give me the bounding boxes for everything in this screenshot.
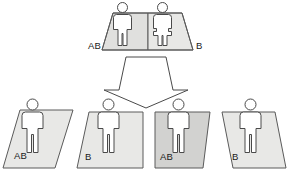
parent-female-head: [158, 3, 168, 13]
offspring-3: AB: [155, 99, 210, 168]
offspring-2: B: [77, 99, 143, 168]
diagram-canvas: AB B AB B AB: [0, 0, 289, 173]
parent-male-head: [118, 3, 128, 13]
parents-label-ab: AB: [88, 40, 101, 51]
offspring-1-head: [27, 99, 38, 110]
offspring-1: AB: [3, 99, 73, 168]
offspring-2-head: [103, 99, 114, 110]
blood-type-inheritance-diagram: AB B AB B AB: [0, 0, 289, 173]
offspring-4-head: [245, 99, 256, 110]
parents-label-b: B: [196, 40, 203, 51]
offspring-2-label: B: [85, 151, 92, 162]
parents-group: AB B: [88, 3, 203, 52]
offspring-4: B: [222, 99, 286, 168]
offspring-3-label: AB: [160, 151, 173, 162]
offspring-3-head: [173, 99, 184, 110]
offspring-1-label: AB: [14, 150, 27, 161]
offspring-4-label: B: [232, 151, 239, 162]
